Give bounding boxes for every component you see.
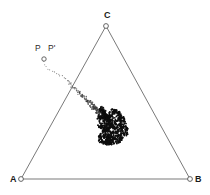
orbit-point	[104, 132, 106, 134]
orbit-point	[103, 116, 105, 118]
vertex-markers	[19, 24, 193, 182]
orbit-point	[104, 123, 106, 125]
orbit-point	[120, 139, 122, 141]
orbit-point	[103, 114, 105, 116]
orbit-point	[76, 90, 77, 91]
orbit-point	[87, 102, 89, 104]
orbit-point	[119, 130, 121, 132]
orbit-point	[106, 140, 108, 142]
orbit-point	[79, 92, 80, 93]
orbit-point	[102, 139, 104, 141]
orbit-point	[59, 75, 60, 76]
orbit-point	[112, 124, 114, 126]
orbit-point	[91, 103, 93, 105]
orbit-point	[101, 125, 103, 127]
attractor-cluster	[96, 106, 128, 146]
chaos-game-figure: C A B P P'	[0, 0, 210, 195]
triangle-edges	[21, 26, 190, 179]
orbit-point	[115, 141, 117, 143]
vertex-marker-b	[188, 177, 193, 182]
orbit-point	[110, 130, 112, 132]
orbit-point	[65, 78, 66, 79]
orbit-point	[125, 126, 127, 128]
orbit-point	[101, 142, 103, 144]
orbit-point	[107, 144, 109, 146]
orbit-point	[109, 115, 111, 117]
vertex-label-b: B	[195, 175, 202, 184]
orbit-point	[114, 123, 116, 125]
orbit-point	[98, 139, 100, 141]
orbit-point	[106, 127, 108, 129]
orbit-point	[116, 126, 118, 128]
orbit-point	[101, 127, 103, 129]
orbit-point	[104, 127, 106, 129]
vertex-marker-c	[104, 24, 109, 29]
orbit-point	[49, 69, 50, 70]
orbit-point	[79, 93, 80, 94]
orbit-point	[89, 101, 91, 103]
orbit-point	[115, 112, 117, 114]
orbit-point	[70, 83, 71, 84]
orbit-point	[70, 86, 71, 87]
orbit-point	[108, 141, 110, 143]
orbit-point	[104, 112, 106, 114]
orbit-point	[114, 117, 116, 119]
orbit-point	[118, 134, 120, 136]
orbit-point	[106, 136, 108, 138]
orbit-point	[114, 135, 116, 137]
orbit-point	[120, 133, 122, 135]
orbit-point	[116, 114, 118, 116]
orbit-point	[123, 126, 125, 128]
orbit-point	[77, 94, 78, 95]
orbit-point	[100, 133, 102, 135]
orbit-point	[54, 71, 55, 72]
orbit-point	[58, 74, 59, 75]
vertex-marker-a	[19, 177, 24, 182]
orbit-point	[78, 90, 79, 91]
orbit-point	[94, 107, 96, 109]
orbit-point	[97, 124, 99, 126]
orbit-point	[68, 84, 69, 85]
orbit-point	[120, 113, 122, 115]
orbit-point	[76, 88, 77, 89]
orbit-point	[106, 120, 108, 122]
orbit-point	[112, 113, 114, 115]
orbit-point	[64, 77, 65, 78]
orbit-point	[45, 66, 46, 67]
orbit-point	[99, 122, 101, 124]
orbit-point	[109, 112, 111, 114]
orbit-point	[115, 120, 117, 122]
orbit-point	[113, 142, 115, 144]
orbit-point	[119, 119, 121, 121]
orbit-point	[107, 132, 109, 134]
orbit-point	[44, 64, 45, 65]
orbit-point	[104, 118, 106, 120]
orbit-point	[99, 117, 101, 119]
orbit-point	[109, 120, 111, 122]
point-label-p-prime: P'	[48, 44, 55, 53]
orbit-point	[111, 118, 113, 120]
orbit-point	[84, 99, 86, 101]
orbit-point	[123, 120, 125, 122]
orbit-point	[110, 109, 112, 111]
orbit-point	[105, 110, 107, 112]
orbit-point	[100, 109, 102, 111]
orbit-point	[110, 140, 112, 142]
orbit-point	[56, 73, 57, 74]
orbit-point	[126, 129, 128, 131]
orbit-point	[92, 106, 94, 108]
orbit-point	[102, 130, 104, 132]
orbit-point	[68, 80, 69, 81]
orbit-point	[106, 144, 108, 146]
vertex-label-a: A	[10, 175, 17, 184]
orbit-point	[69, 81, 70, 82]
orbit-point	[113, 109, 115, 111]
orbit-point	[100, 138, 102, 140]
orbit-point	[111, 144, 113, 146]
orbit-point	[102, 141, 104, 143]
orbit-point	[112, 131, 114, 133]
seed-point-marker-p	[42, 57, 46, 61]
orbit-point	[120, 122, 122, 124]
orbit-point	[107, 118, 109, 120]
orbit-point	[122, 130, 124, 132]
